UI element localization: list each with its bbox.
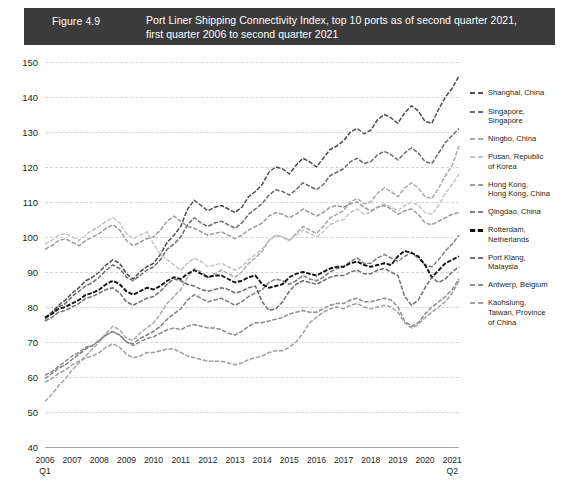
legend-item-port-klang[interactable]: Port Klang, Malaysia [470, 253, 579, 272]
legend-item-ningbo[interactable]: Ningbo, China [470, 134, 579, 144]
legend-label: Singapore, Singapore [488, 107, 525, 126]
legend-label: Port Klang, Malaysia [488, 253, 526, 272]
legend-swatch-icon [470, 207, 483, 216]
x-tick-label-2018: 2018 [361, 455, 380, 466]
legend-swatch-icon [470, 253, 483, 262]
legend-swatch-icon [470, 88, 483, 97]
legend-swatch-icon [470, 152, 483, 161]
x-tick-label-2010: 2010 [144, 455, 163, 466]
legend-swatch-icon [470, 280, 483, 289]
legend-item-pusan[interactable]: Pusan, Republic of Korea [470, 152, 579, 171]
x-tick-label-2011: 2011 [171, 455, 189, 466]
x-tick-label-2009: 2009 [117, 455, 136, 466]
legend-item-shanghai[interactable]: Shanghai, China [470, 88, 579, 98]
legend-label: Hong Kong, Hong Kong, China [488, 180, 550, 199]
legend-label: Kaohsiung, Taiwan, Province of China [488, 298, 545, 327]
legend-item-rotterdam[interactable]: Rotterdam, Netherlands [470, 225, 579, 244]
x-tick-label-2012: 2012 [198, 455, 217, 466]
legend-swatch-icon [470, 225, 483, 234]
legend-label: Shanghai, China [488, 88, 544, 98]
legend-label: Ningbo, China [488, 134, 536, 144]
x-tick-label-2013: 2013 [225, 455, 244, 466]
x-tick-label-2020: 2020 [416, 455, 435, 466]
x-tick-label-2008: 2008 [90, 455, 109, 466]
x-tick-label-2016: 2016 [307, 455, 326, 466]
x-tick-label-2021: 2021Q2 [443, 455, 462, 477]
legend-swatch-icon [470, 180, 483, 189]
x-tick-label-2006: 2006Q1 [35, 455, 54, 477]
legend-swatch-icon [470, 134, 483, 143]
x-tick-label-2015: 2015 [280, 455, 299, 466]
legend-label: Antwerp, Belgium [488, 280, 548, 290]
x-tick-quarter: Q2 [443, 466, 462, 477]
legend-label: Qingdao, China [488, 207, 541, 217]
x-tick-label-2017: 2017 [334, 455, 353, 466]
x-tick-quarter: Q1 [35, 466, 54, 477]
x-tick-label-2014: 2014 [253, 455, 272, 466]
legend-swatch-icon [470, 107, 483, 116]
legend-item-hong-kong[interactable]: Hong Kong, Hong Kong, China [470, 180, 579, 199]
legend-label: Pusan, Republic of Korea [488, 152, 543, 171]
legend-label: Rotterdam, Netherlands [488, 225, 529, 244]
legend-item-kaohsiung[interactable]: Kaohsiung, Taiwan, Province of China [470, 298, 579, 327]
legend-swatch-icon [470, 298, 483, 307]
x-tick-label-2007: 2007 [63, 455, 82, 466]
legend-item-antwerp[interactable]: Antwerp, Belgium [470, 280, 579, 290]
legend-item-qingdao[interactable]: Qingdao, China [470, 207, 579, 217]
figure-root: Figure 4.9 Port Liner Shipping Connectiv… [0, 0, 579, 492]
x-tick-label-2019: 2019 [388, 455, 407, 466]
legend-item-singapore[interactable]: Singapore, Singapore [470, 107, 579, 126]
chart-legend: Shanghai, ChinaSingapore, SingaporeNingb… [470, 88, 579, 335]
